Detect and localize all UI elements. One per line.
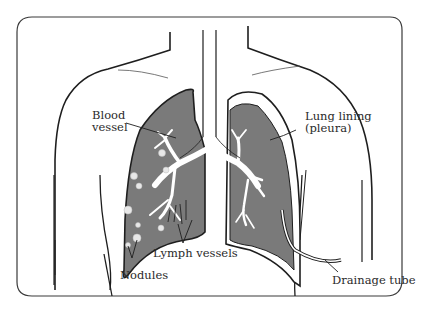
- lung-diagram: Blood vessel Lung lining (pleura) Lymph …: [0, 0, 432, 326]
- trachea: [203, 30, 216, 137]
- label-drainage-tube: Drainage tube: [332, 274, 416, 286]
- label-blood-vessel-line2: vessel: [92, 121, 128, 133]
- label-lymph-vessels: Lymph vessels: [153, 247, 238, 259]
- label-lung-lining-line2: (pleura): [305, 122, 372, 134]
- label-nodules: Nodules: [120, 269, 168, 281]
- label-blood-vessel: Blood vessel: [92, 109, 128, 133]
- label-lung-lining: Lung lining (pleura): [305, 110, 372, 134]
